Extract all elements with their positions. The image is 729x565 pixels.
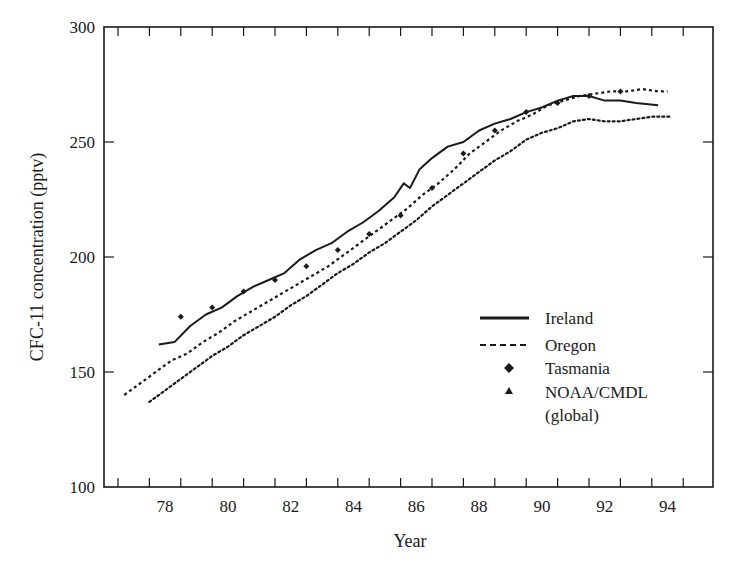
x-tick-label: 90 (533, 497, 550, 516)
y-tick-label: 300 (70, 18, 96, 37)
y-tick-label: 200 (70, 248, 96, 267)
y-tick-label: 100 (70, 478, 96, 497)
legend-diamond-icon (504, 363, 514, 373)
plot-frame (104, 27, 713, 487)
x-tick-label: 94 (659, 497, 677, 516)
x-tick-label: 82 (282, 497, 299, 516)
x-tick-label: 80 (219, 497, 236, 516)
series-ireland (159, 96, 658, 344)
y-tick-label: 150 (70, 363, 96, 382)
x-tick-label: 86 (408, 497, 425, 516)
x-axis-tick-labels: 788082848688909294 (157, 497, 677, 516)
y-axis-tick-labels: 100150200250300 (70, 18, 96, 497)
y-tick-label: 250 (70, 133, 96, 152)
y-axis-title: CFC-11 concentration (pptv) (27, 153, 48, 361)
series-tasmania (178, 88, 624, 319)
legend-label-tasmania: Tasmania (545, 359, 610, 378)
legend-label-oregon: Oregon (545, 336, 596, 355)
legend-label-ireland: Ireland (545, 309, 594, 328)
cfc11-chart: 788082848688909294 100150200250300 Year … (0, 0, 729, 565)
x-tick-label: 78 (157, 497, 174, 516)
legend-label-global: (global) (545, 406, 599, 425)
legend-triangle-icon (505, 387, 513, 394)
x-tick-label: 84 (345, 497, 363, 516)
legend-label-noaa-cmdl: NOAA/CMDL (545, 383, 648, 402)
x-tick-label: 88 (471, 497, 488, 516)
legend: Ireland Oregon Tasmania NOAA/CMDL (globa… (480, 309, 648, 425)
x-tick-label: 92 (596, 497, 613, 516)
x-axis-title: Year (393, 531, 426, 551)
y-axis-ticks (104, 142, 713, 372)
